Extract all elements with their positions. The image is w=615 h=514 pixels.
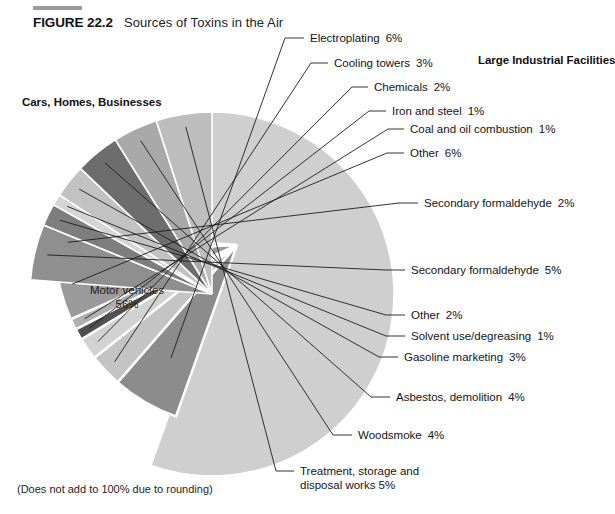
callout-label: Iron and steel [392,105,462,117]
callout-value: 2% [558,197,575,209]
callout-label: Coal and oil combustion [410,123,533,135]
callout-iron-and-steel: Iron and steel1% [392,104,484,118]
callout-label: Secondary formaldehyde [411,264,539,276]
callout-electroplating: Electroplating6% [310,31,402,45]
callout-label: Woodsmoke [358,429,422,441]
callout-cooling-towers: Cooling towers3% [334,56,433,70]
figure-footnote: (Does not add to 100% due to rounding) [17,483,213,495]
motor-vehicles-value: 56% [62,297,192,311]
callout-solvent-use-degreasing: Solvent use/degreasing1% [411,329,554,343]
callout-other-industrial: Other6% [410,146,461,160]
callout-other-area: Other2% [411,308,462,322]
slice-label-motor-vehicles: Motor vehicles 56% [62,283,192,311]
callout-asbestos-demolition: Asbestos, demolition4% [396,390,525,404]
callout-label: Cooling towers [334,57,410,69]
callout-value: 2% [446,309,463,321]
callout-label: Gasoline marketing [404,351,503,363]
callout-coal-and-oil-combustion: Coal and oil combustion1% [410,122,555,136]
callout-gasoline-marketing: Gasoline marketing3% [404,350,526,364]
callout-label: Solvent use/degreasing [411,330,531,342]
callout-value: 4% [428,429,445,441]
callout-label-line1: Treatment, storage and [300,464,419,478]
callout-chemicals: Chemicals2% [374,80,450,94]
callout-value: 4% [508,391,525,403]
callout-value: 1% [537,330,554,342]
motor-vehicles-name: Motor vehicles [62,283,192,297]
callout-label: Asbestos, demolition [396,391,502,403]
callout-secondary-formaldehyde-5: Secondary formaldehyde5% [411,263,561,277]
callout-label: Chemicals [374,81,428,93]
callout-value: 3% [509,351,526,363]
callout-woodsmoke: Woodsmoke4% [358,428,444,442]
callout-value: 2% [434,81,451,93]
callout-value: 6% [445,147,462,159]
callout-secondary-formaldehyde-2: Secondary formaldehyde2% [424,196,574,210]
callout-value: 3% [416,57,433,69]
callout-value: 5% [545,264,562,276]
callout-value: 1% [539,123,556,135]
callout-label: Other [411,309,440,321]
callout-label: Electroplating [310,32,380,44]
callout-label: Other [410,147,439,159]
callout-label: Secondary formaldehyde [424,197,552,209]
callout-treatment-storage-disposal-works: Treatment, storage anddisposal works 5% [300,464,419,492]
callout-value: 6% [386,32,403,44]
callout-label-line2: disposal works 5% [300,478,419,492]
callout-value: 1% [468,105,485,117]
